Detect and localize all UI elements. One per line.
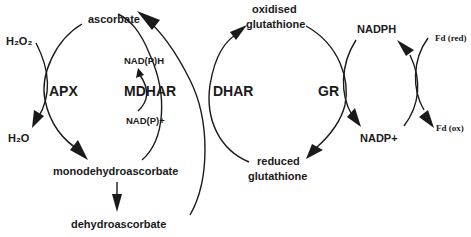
label-fd-ox: Fd (ox)	[436, 123, 464, 133]
label-dehydroascorbate: dehydroascorbate	[71, 218, 166, 230]
h2o2-to-h2o-curve	[36, 43, 48, 118]
enzyme-gr: GR	[318, 83, 339, 99]
reduced-glutathione-arrowhead-icon	[306, 144, 323, 159]
label-fd-red: Fd (red)	[435, 33, 467, 43]
label-reduced-glutathione-line2: glutathione	[248, 170, 307, 182]
fd-ox-arrowhead-icon	[419, 110, 434, 128]
label-ascorbate: ascorbate	[88, 13, 140, 25]
label-nadp: NADP+	[360, 132, 398, 144]
ascorbate-glutathione-cycle-diagram: H₂O₂ H₂O ascorbate monodehydroascorbate …	[0, 0, 471, 237]
nadph-arrowhead-icon	[136, 68, 144, 78]
label-oxidised-glutathione-line1: oxidised	[252, 3, 297, 15]
label-h2o2: H₂O₂	[6, 35, 32, 47]
dha-arrowhead-icon	[112, 194, 122, 212]
label-nadph: NADPH	[357, 23, 396, 35]
nadph-regeneration-arrowhead-icon	[397, 40, 414, 56]
label-oxidised-glutathione-line2: glutathione	[246, 18, 305, 30]
label-nadph-mdhar: NAD(P)H	[124, 55, 164, 66]
fd-red-to-ox-curve	[415, 38, 428, 110]
enzyme-dhar: DHAR	[213, 83, 253, 99]
label-nadp-mdhar: NAD(P)+	[126, 115, 165, 126]
label-monodehydroascorbate: monodehydroascorbate	[53, 165, 178, 177]
enzyme-apx: APX	[49, 83, 78, 99]
enzyme-mdhar: MDHAR	[124, 83, 176, 99]
label-h2o: H₂O	[8, 132, 30, 144]
diagram-svg: H₂O₂ H₂O ascorbate monodehydroascorbate …	[0, 0, 471, 237]
label-reduced-glutathione-line1: reduced	[257, 155, 300, 167]
fd-regeneration-curve	[404, 55, 418, 126]
mda-arrowhead-icon	[70, 140, 88, 160]
h2o-arrowhead-icon	[32, 110, 44, 128]
